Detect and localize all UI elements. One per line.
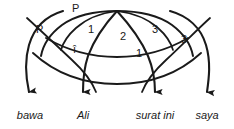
word-label-ali: Ali xyxy=(77,110,89,121)
arc-mid-bow xyxy=(46,38,188,57)
arc-label-p-left: P xyxy=(36,24,43,35)
arc-label-one-lower-right: 1 xyxy=(136,48,142,59)
arc-p-outer-left xyxy=(41,11,117,56)
dependency-arc-figure: P P 1 2 3 3 î 1 bawa Ali surat ini saya xyxy=(0,0,234,129)
arc-label-i-circumflex: î xyxy=(73,44,76,55)
arc-label-p-top: P xyxy=(72,3,79,14)
word-label-saya: saya xyxy=(195,110,218,121)
word-label-bawa: bawa xyxy=(17,110,43,121)
arc-label-two-centre: 2 xyxy=(120,31,126,42)
word-label-surat-ini: surat ini xyxy=(136,110,175,121)
arc-label-one-upper-left: 1 xyxy=(88,24,94,35)
arc-label-three-upper-right: 3 xyxy=(152,24,158,35)
arc-label-three-far-right: 3 xyxy=(181,34,187,45)
